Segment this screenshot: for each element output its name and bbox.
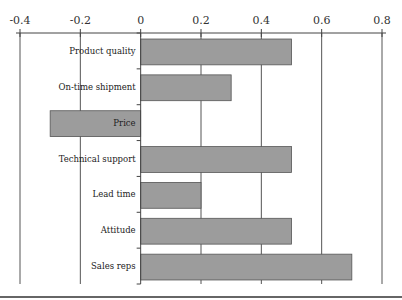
x-tick-label: 0: [137, 14, 144, 27]
bar: [141, 147, 292, 173]
x-tick-label: -0.4: [9, 14, 30, 27]
category-label: Technical support: [59, 154, 137, 164]
bar: [141, 254, 352, 280]
category-label: Attitude: [100, 225, 136, 235]
x-tick-label: 0.4: [253, 14, 271, 27]
x-tick-label: 0.8: [373, 14, 391, 27]
category-labels: Product qualityOn-time shipmentPriceTech…: [58, 46, 136, 271]
x-tick-label: 0.6: [313, 14, 331, 27]
bar: [141, 75, 232, 101]
category-label: Sales reps: [91, 261, 136, 271]
category-label: Product quality: [69, 46, 136, 56]
category-label: On-time shipment: [58, 82, 136, 92]
category-label: Price: [113, 118, 135, 128]
category-label: Lead time: [93, 189, 136, 199]
bar: [141, 39, 292, 65]
bar: [141, 218, 292, 244]
bar: [141, 182, 201, 208]
bar-chart: -0.4-0.200.20.40.60.8 Product qualityOn-…: [0, 0, 402, 300]
x-tick-label: 0.2: [192, 14, 210, 27]
x-tick-label: -0.2: [70, 14, 91, 27]
